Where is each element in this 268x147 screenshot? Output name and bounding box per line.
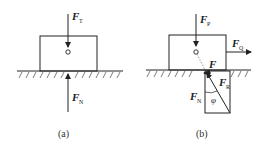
- svg-text:N: N: [197, 98, 202, 104]
- label-f: F: [208, 58, 217, 70]
- svg-text:R: R: [226, 84, 230, 90]
- ground-hatch-b: [147, 71, 248, 77]
- ground-hatch-a: [19, 72, 120, 78]
- force-diagram: F T F N (a) F F P F Q F N F R φ (b): [0, 0, 268, 147]
- svg-text:N: N: [79, 99, 84, 105]
- caption-b: (b): [196, 128, 208, 140]
- center-point-b: [194, 50, 198, 54]
- dashed-line: [197, 54, 205, 70]
- panel-b: F F P F Q F N F R φ (b): [146, 13, 251, 140]
- caption-a: (a): [58, 128, 69, 140]
- center-point-a: [66, 50, 70, 54]
- svg-text:P: P: [207, 21, 211, 27]
- svg-text:T: T: [79, 18, 83, 24]
- angle-arc: [205, 91, 217, 93]
- svg-text:Q: Q: [239, 45, 244, 51]
- label-phi: φ: [211, 95, 216, 105]
- panel-a: F T F N (a): [17, 10, 123, 140]
